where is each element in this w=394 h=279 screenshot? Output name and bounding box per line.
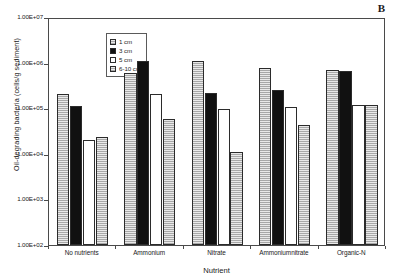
figure-panel-b: B Oil-degrading bacteria (cells/g sedime… [0, 0, 394, 279]
y-axis-tick-label: 1.00E+06 [17, 59, 43, 66]
y-axis-tick-label: 1.00E+04 [17, 150, 43, 157]
bar [137, 61, 149, 245]
y-axis-tick-label: 1.00E+07 [17, 13, 43, 20]
bar [339, 71, 351, 245]
bar [272, 90, 284, 245]
bar [259, 68, 271, 245]
bar [150, 94, 162, 245]
x-axis-category-label: Ammonium [115, 249, 182, 256]
bar [96, 137, 108, 245]
y-axis-tick-label: 1.00E+05 [17, 104, 43, 111]
bar [205, 93, 217, 245]
legend-swatch-icon [110, 66, 116, 72]
y-axis-tick-label: 1.00E+03 [17, 195, 43, 202]
bar [57, 94, 69, 245]
y-axis-tick-label: 1.00E+02 [17, 241, 43, 248]
legend-item-label: 3 cm [119, 47, 132, 54]
legend-swatch-icon [110, 57, 116, 63]
bar [298, 125, 310, 245]
x-axis-category-label: Nitrate [183, 249, 250, 256]
x-axis-title: Nutrient [48, 266, 385, 275]
bar [352, 105, 364, 245]
bar [163, 119, 175, 245]
x-axis-category-label: No nutrients [48, 249, 115, 256]
bar [218, 109, 230, 245]
bar [326, 70, 338, 245]
legend-swatch-icon [110, 48, 116, 54]
bar [230, 152, 242, 245]
bar [70, 106, 82, 245]
bar [365, 105, 377, 245]
y-axis-title: Oil-degrading bacteria (cells/g sediment… [12, 0, 21, 225]
legend-swatch-icon [110, 39, 116, 45]
bar [192, 61, 204, 245]
x-axis-category-label: Ammoniumnitrate [250, 249, 317, 256]
legend-item-label: 1 cm [119, 38, 132, 45]
x-axis-tick-mark [385, 246, 386, 249]
panel-label: B [378, 3, 385, 14]
legend-item: 3 cm [110, 46, 141, 55]
bar [83, 140, 95, 245]
x-axis-category-label: Organic-N [318, 249, 385, 256]
legend-item: 1 cm [110, 37, 141, 46]
bar [124, 73, 136, 245]
bar [285, 107, 297, 245]
legend-item-label: 5 cm [119, 56, 132, 63]
plot-area: 1 cm3 cm5 cm6-10 cm [48, 18, 385, 246]
